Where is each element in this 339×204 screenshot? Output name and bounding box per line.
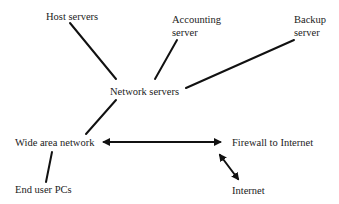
node-internet: Internet — [232, 185, 265, 196]
edge-backup-network — [186, 40, 294, 88]
node-host-servers: Host servers — [46, 11, 98, 22]
diagram-edges — [0, 0, 339, 204]
node-wide-area-network: Wide area network — [15, 137, 94, 148]
node-end-user-pcs: End user PCs — [15, 184, 72, 195]
node-accounting-server-line2: server — [172, 27, 198, 38]
node-backup-server-line1: Backup — [294, 14, 326, 25]
node-accounting-server-line1: Accounting — [172, 14, 221, 25]
edge-host-network — [70, 23, 116, 79]
node-firewall: Firewall to Internet — [232, 137, 313, 148]
edge-wan-enduser — [46, 152, 52, 182]
node-backup-server-line2: server — [294, 27, 320, 38]
node-network-servers: Network servers — [110, 86, 179, 97]
edge-accounting-network — [155, 40, 177, 79]
edge-network-wan — [86, 100, 116, 134]
edge-firewall-internet-arrow — [220, 155, 238, 179]
